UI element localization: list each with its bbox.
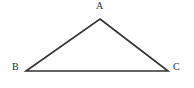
- vertex-label-b: B: [12, 62, 19, 72]
- vertex-label-c: C: [173, 62, 180, 72]
- triangle-figure: A B C: [0, 0, 194, 88]
- vertex-label-a: A: [96, 1, 103, 11]
- triangle-diagram-svg: [0, 0, 194, 88]
- triangle-shape: [26, 19, 168, 71]
